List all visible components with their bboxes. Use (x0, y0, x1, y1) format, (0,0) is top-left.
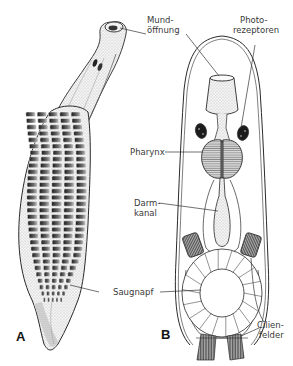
label-photorezeptoren: Photo- rezeptoren (233, 15, 279, 35)
label-saugnapf: Saugnapf (113, 287, 153, 297)
label-photorezeptoren-line2: rezeptoren (233, 25, 279, 35)
label-photorezeptoren-line1: Photo- (233, 15, 279, 25)
label-mundoeffnung-line1: Mund- (147, 15, 180, 25)
photoreceptor-right (236, 124, 251, 141)
panel-label-b: B (161, 327, 170, 342)
label-mundoeffnung-line2: öffnung (147, 25, 180, 35)
label-darmkanal-line1: Darm- (134, 198, 160, 208)
sucker-disc (182, 249, 262, 337)
cilia-field-left (182, 232, 205, 258)
panel-label-a: A (16, 329, 25, 344)
photoreceptor-left (194, 122, 209, 139)
figure-canvas (0, 0, 293, 366)
label-mundoeffnung: Mund- öffnung (147, 15, 180, 35)
cilia-field-right (240, 232, 262, 258)
pharynx (202, 140, 221, 179)
label-cilienfelder-line2: felder (257, 330, 284, 340)
leech-illustration (19, 22, 127, 350)
label-pharynx: Pharynx (130, 147, 165, 157)
label-darmkanal-line2: kanal (134, 208, 160, 218)
label-darmkanal: Darm- kanal (134, 198, 160, 218)
label-cilienfelder: Cilien- felder (257, 320, 284, 340)
gut-canal (214, 178, 230, 247)
mouth-funnel (206, 78, 238, 115)
label-cilienfelder-line1: Cilien- (257, 320, 284, 330)
larva-illustration (175, 36, 268, 360)
